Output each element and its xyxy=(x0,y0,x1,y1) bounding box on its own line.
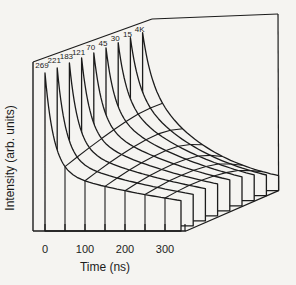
iso-time-line-200ns xyxy=(198,155,210,156)
x-tick-label-300: 300 xyxy=(156,243,174,255)
temperature-label-45: 45 xyxy=(99,39,108,48)
right-frame-edge xyxy=(278,14,279,191)
temperature-label-4K: 4K xyxy=(135,25,145,34)
temperature-label-70: 70 xyxy=(86,43,95,52)
x-tick-label-200: 200 xyxy=(116,243,134,255)
x-axis-label: Time (ns) xyxy=(80,260,130,274)
waterfall-figure: 0100200300Time (ns)Intensity (arb. units… xyxy=(0,0,296,285)
y-axis-label: Intensity (arb. units) xyxy=(3,105,17,210)
x-tick-label-100: 100 xyxy=(76,243,94,255)
temperature-label-30: 30 xyxy=(111,34,120,43)
temperature-label-15: 15 xyxy=(123,30,132,39)
chart-canvas: 0100200300Time (ns)Intensity (arb. units… xyxy=(0,0,296,285)
temperature-label-121: 121 xyxy=(72,48,86,57)
back-top-edge xyxy=(152,14,278,19)
x-tick-label-0: 0 xyxy=(42,243,48,255)
